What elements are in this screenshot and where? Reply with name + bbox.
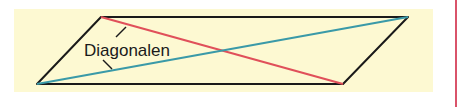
label-pointer-bottom — [103, 60, 112, 69]
diagonals-label: Diagonalen — [84, 41, 170, 60]
parallelogram-diagram: Diagonalen — [0, 0, 461, 107]
label-pointer-top — [116, 27, 126, 37]
